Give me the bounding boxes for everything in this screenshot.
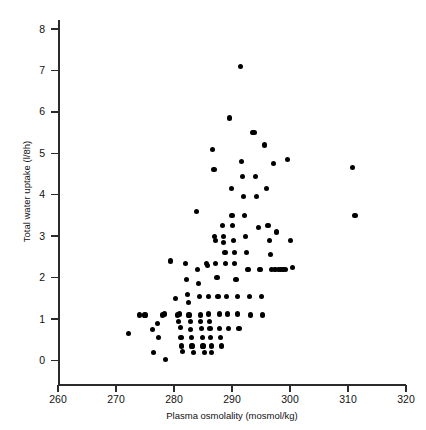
data-point	[220, 223, 225, 228]
data-point	[200, 335, 205, 340]
data-point	[235, 294, 240, 299]
data-point	[206, 311, 211, 316]
data-point	[276, 267, 281, 272]
data-point	[176, 319, 181, 324]
data-point	[202, 350, 207, 355]
data-point	[198, 319, 203, 324]
data-point	[209, 350, 214, 355]
data-point	[240, 174, 245, 179]
data-point	[197, 294, 202, 299]
data-point	[213, 238, 218, 243]
data-point	[199, 326, 204, 331]
data-point	[260, 312, 265, 317]
x-axis-tick-label: 320	[386, 394, 426, 405]
y-axis-tick-mark	[51, 153, 58, 154]
x-axis-tick-label: 260	[38, 394, 78, 405]
data-point	[185, 292, 190, 297]
data-point	[285, 157, 290, 162]
data-point	[206, 294, 211, 299]
data-point	[236, 326, 241, 331]
data-point	[204, 261, 209, 266]
data-point	[253, 174, 258, 179]
data-point	[218, 335, 223, 340]
data-point	[183, 261, 188, 266]
data-point	[274, 229, 279, 234]
data-point	[189, 335, 194, 340]
data-point	[352, 213, 357, 218]
data-point	[186, 300, 191, 305]
data-point	[150, 327, 155, 332]
x-axis-tick-mark	[289, 385, 290, 392]
data-point	[205, 263, 210, 268]
x-axis-tick-mark	[173, 385, 174, 392]
data-point	[226, 326, 231, 331]
y-axis-tick-mark	[51, 277, 58, 278]
data-point	[217, 326, 222, 331]
x-axis-tick-mark	[115, 385, 116, 392]
data-point	[212, 234, 217, 239]
y-axis-tick-mark	[51, 360, 58, 361]
data-point	[271, 161, 276, 166]
data-point	[229, 213, 234, 218]
data-point	[223, 261, 228, 266]
data-point	[280, 267, 285, 272]
x-axis-title: Plasma osmolality (mosmol/kg)	[58, 410, 406, 421]
x-axis-tick-label: 290	[212, 394, 252, 405]
data-point	[208, 335, 213, 340]
data-point	[207, 319, 212, 324]
data-point	[231, 238, 236, 243]
data-points-layer	[0, 0, 426, 430]
data-point	[243, 234, 248, 239]
data-point	[207, 326, 212, 331]
data-point	[151, 350, 156, 355]
data-point	[198, 312, 203, 317]
data-point	[233, 277, 238, 282]
data-point	[259, 294, 264, 299]
data-point	[175, 312, 180, 317]
data-point	[194, 209, 199, 214]
y-axis-tick-label: 1	[15, 314, 45, 325]
data-point	[258, 267, 263, 272]
data-point	[126, 331, 131, 336]
data-point	[224, 294, 229, 299]
data-point	[155, 321, 160, 326]
data-point	[244, 250, 249, 255]
data-point	[225, 311, 230, 316]
x-axis-tick-label: 270	[96, 394, 136, 405]
x-axis-tick-mark	[347, 385, 348, 392]
y-axis-line	[58, 20, 60, 386]
y-axis-tick-mark	[51, 235, 58, 236]
y-axis-tick-label: 7	[15, 65, 45, 76]
data-point	[272, 267, 277, 272]
data-point	[350, 165, 355, 170]
data-point	[265, 223, 270, 228]
y-axis-title: Total water uptake (l/8h)	[21, 92, 32, 292]
data-point	[283, 267, 288, 272]
data-point	[268, 252, 273, 257]
x-axis-tick-label: 310	[328, 394, 368, 405]
data-point	[247, 294, 252, 299]
data-point	[195, 267, 200, 272]
x-axis-tick-label: 300	[270, 394, 310, 405]
data-point	[196, 281, 201, 286]
y-axis-tick-label: 0	[15, 355, 45, 366]
y-axis-tick-mark	[51, 194, 58, 195]
data-point	[156, 335, 161, 340]
data-point	[137, 312, 142, 317]
data-point	[239, 159, 244, 164]
data-point	[173, 296, 178, 301]
data-point	[267, 238, 272, 243]
data-point	[191, 350, 196, 355]
data-point	[242, 213, 247, 218]
y-axis-tick-mark	[51, 318, 58, 319]
data-point	[278, 267, 283, 272]
data-point	[241, 194, 246, 199]
data-point	[189, 343, 194, 348]
data-point	[227, 115, 232, 120]
data-point	[245, 267, 250, 272]
y-axis-tick-label: 8	[15, 24, 45, 35]
data-point	[215, 294, 220, 299]
data-point	[213, 261, 218, 266]
data-point	[221, 240, 226, 245]
data-point	[160, 312, 165, 317]
